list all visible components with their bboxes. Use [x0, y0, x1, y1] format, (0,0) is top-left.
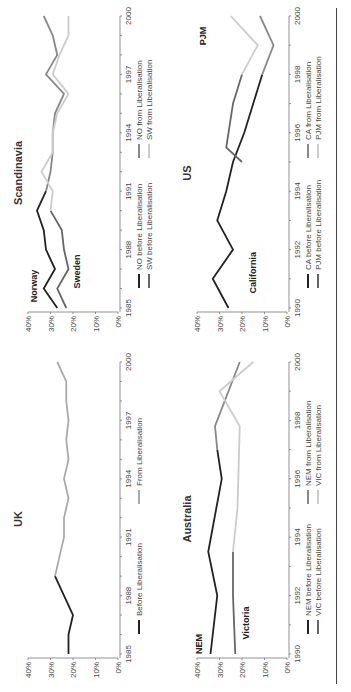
- svg-text:40%: 40%: [24, 662, 33, 678]
- series-annotation: Norway: [29, 270, 39, 303]
- legend-entry: Before Liberalisation: [135, 543, 144, 616]
- legend-entry: PJM from Liberalisation: [314, 56, 323, 140]
- svg-text:0%: 0%: [283, 316, 292, 328]
- svg-text:30%: 30%: [216, 662, 225, 678]
- series-line: [233, 552, 235, 654]
- legend-entry: NEM from Liberalisation: [304, 401, 313, 486]
- svg-text:30%: 30%: [47, 662, 56, 678]
- legend-entry: VIC from Liberalisation: [314, 405, 323, 486]
- svg-text:40%: 40%: [193, 662, 202, 678]
- svg-text:1988: 1988: [124, 586, 133, 604]
- legend-entry: VIC before Liberalisation: [314, 528, 323, 616]
- svg-text:0%: 0%: [114, 316, 123, 328]
- series-annotation: Victoria: [241, 606, 251, 640]
- svg-text:10%: 10%: [92, 662, 101, 678]
- line-chart: 0%10%20%30%40%198519881991199419972000No…: [0, 0, 175, 346]
- series-line: [231, 16, 258, 74]
- svg-text:30%: 30%: [216, 316, 225, 332]
- svg-text:2000: 2000: [124, 353, 133, 371]
- series-line: [208, 450, 222, 654]
- series-line: [51, 211, 69, 308]
- svg-text:1994: 1994: [124, 469, 133, 487]
- svg-text:1990: 1990: [293, 645, 302, 663]
- svg-text:0%: 0%: [283, 662, 292, 674]
- svg-text:20%: 20%: [238, 662, 247, 678]
- svg-text:1991: 1991: [124, 182, 133, 200]
- uk-panel: UK0%10%20%30%40%198519881991199419972000…: [0, 346, 175, 692]
- series-annotation: PJM: [198, 27, 208, 46]
- svg-text:1985: 1985: [124, 645, 133, 663]
- svg-text:1988: 1988: [124, 240, 133, 258]
- legend-entry: CA before Liberalisation: [304, 185, 313, 270]
- svg-text:40%: 40%: [24, 316, 33, 332]
- legend-entry: SW from Liberalisation: [145, 60, 154, 140]
- svg-text:10%: 10%: [92, 316, 101, 332]
- series-line: [220, 362, 254, 552]
- series-annotation: California: [248, 251, 258, 294]
- scandinavia-panel: Scandinavia0%10%20%30%40%198519881991199…: [0, 0, 175, 346]
- svg-text:1990: 1990: [293, 299, 302, 317]
- svg-text:10%: 10%: [261, 662, 270, 678]
- series-annotation: Sweden: [72, 255, 82, 289]
- svg-text:2000: 2000: [293, 353, 302, 371]
- svg-text:2000: 2000: [124, 7, 133, 25]
- series-line: [44, 16, 64, 191]
- svg-text:1996: 1996: [293, 123, 302, 141]
- svg-text:40%: 40%: [193, 316, 202, 332]
- series-line: [55, 576, 73, 654]
- svg-text:1994: 1994: [293, 528, 302, 546]
- svg-text:20%: 20%: [69, 662, 78, 678]
- series-line: [226, 74, 242, 162]
- legend-entry: PJM before Liberalisation: [314, 180, 323, 270]
- svg-text:1992: 1992: [293, 240, 302, 258]
- us-panel: US0%10%20%30%40%199019921994199619982000…: [175, 0, 350, 346]
- svg-text:1985: 1985: [124, 299, 133, 317]
- line-chart: 0%10%20%30%40%199019921994199619982000Ca…: [175, 0, 350, 346]
- line-chart: 0%10%20%30%40%199019921994199619982000NE…: [175, 346, 350, 692]
- series-line: [260, 16, 274, 74]
- svg-text:20%: 20%: [69, 316, 78, 332]
- svg-text:30%: 30%: [47, 316, 56, 332]
- svg-text:1991: 1991: [124, 528, 133, 546]
- line-chart: 0%10%20%30%40%198519881991199419972000Be…: [0, 346, 175, 692]
- legend-entry: NEM before Liberalisation: [304, 524, 313, 616]
- svg-text:1996: 1996: [293, 469, 302, 487]
- svg-text:20%: 20%: [238, 316, 247, 332]
- svg-text:1994: 1994: [124, 123, 133, 141]
- svg-text:1997: 1997: [124, 65, 133, 83]
- legend-entry: NO from Liberalisation: [135, 60, 144, 140]
- series-line: [37, 191, 57, 308]
- svg-text:0%: 0%: [114, 662, 123, 674]
- legend-entry: From Liberalisation: [135, 418, 144, 486]
- svg-text:1994: 1994: [293, 182, 302, 200]
- svg-text:10%: 10%: [261, 316, 270, 332]
- series-annotation: NEM: [194, 634, 204, 654]
- bottom-rule: [336, 8, 337, 684]
- series-line: [55, 362, 69, 576]
- legend-entry: SW before Liberalisation: [145, 183, 154, 270]
- svg-text:1997: 1997: [124, 411, 133, 429]
- svg-text:1992: 1992: [293, 586, 302, 604]
- legend-entry: NO before Liberalisation: [135, 184, 144, 270]
- svg-text:1998: 1998: [293, 65, 302, 83]
- australia-panel: Australia0%10%20%30%40%19901992199419961…: [175, 346, 350, 692]
- rotated-figure-page: UK0%10%20%30%40%198519881991199419972000…: [0, 0, 351, 692]
- svg-text:2000: 2000: [293, 7, 302, 25]
- legend-entry: CA from Liberalisation: [304, 62, 313, 140]
- svg-text:1998: 1998: [293, 411, 302, 429]
